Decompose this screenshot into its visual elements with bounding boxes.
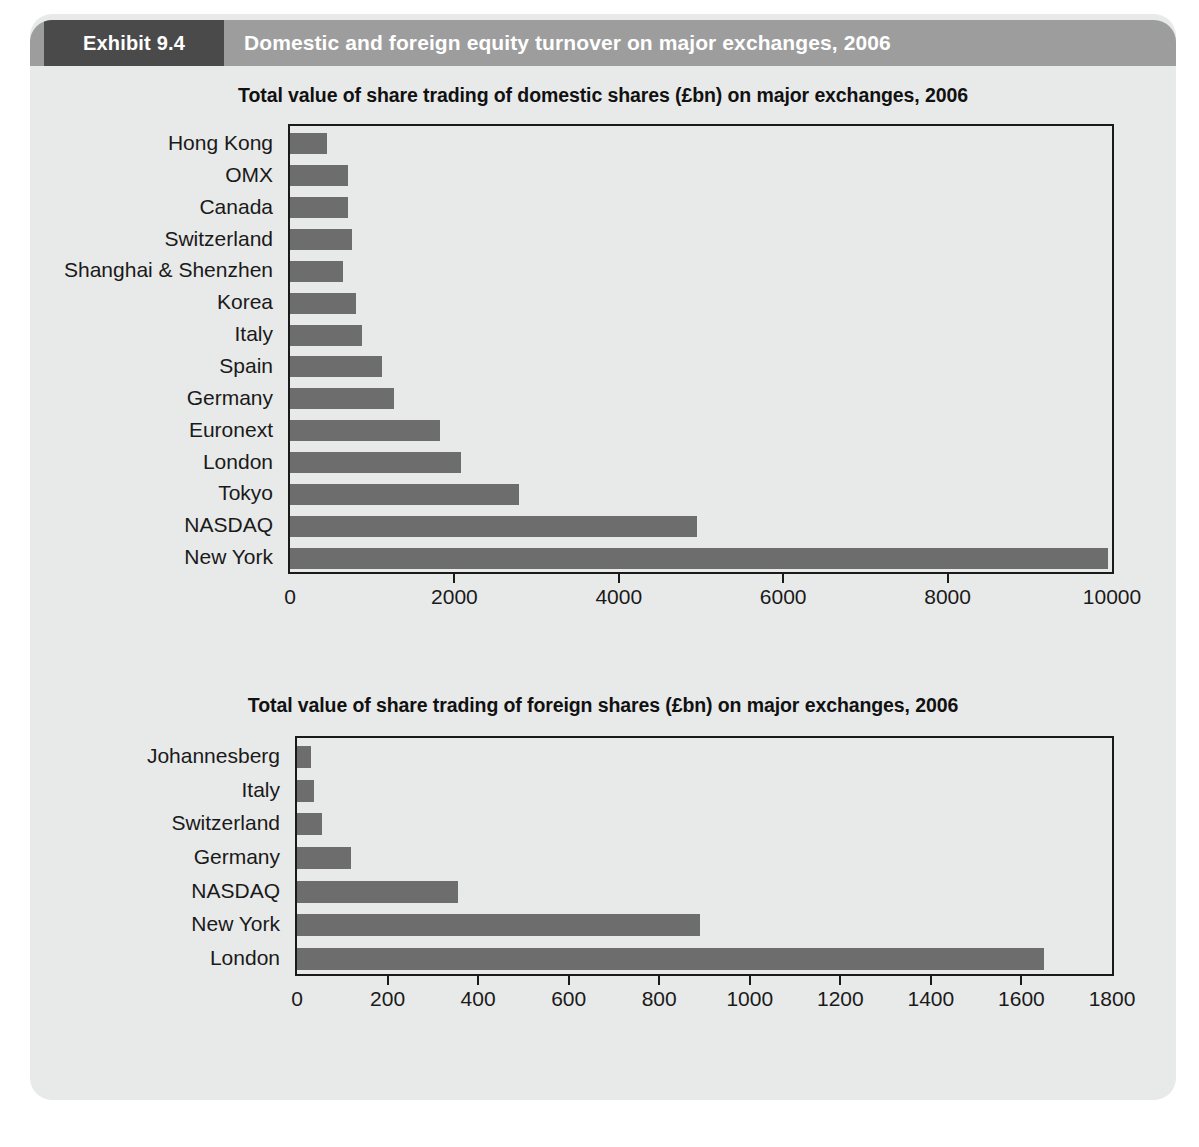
exhibit-header-bar: Exhibit 9.4 Domestic and foreign equity … [30, 20, 1176, 66]
category-tick-label: Johannesberg [147, 744, 280, 765]
chart-domestic-category-axis: Hong KongOMXCanadaSwitzerlandShanghai & … [30, 124, 282, 574]
bar [290, 516, 697, 537]
chart-domestic-plot-area [288, 124, 1114, 574]
bar [290, 548, 1108, 569]
bar [297, 780, 314, 802]
category-tick-label: Spain [219, 354, 273, 375]
axis-tick [477, 976, 479, 985]
axis-tick-label: 6000 [760, 585, 807, 609]
axis-tick [930, 976, 932, 985]
chart-foreign-category-axis: JohannesbergItalySwitzerlandGermanyNASDA… [30, 736, 289, 976]
bar [290, 452, 461, 473]
axis-tick-label: 2000 [431, 585, 478, 609]
exhibit-title: Domestic and foreign equity turnover on … [244, 20, 891, 66]
axis-tick-label: 4000 [595, 585, 642, 609]
bar [290, 261, 343, 282]
exhibit-tag-label: Exhibit 9.4 [83, 32, 185, 55]
axis-tick [749, 976, 751, 985]
chart-foreign-plot-area [295, 736, 1114, 976]
axis-tick [658, 976, 660, 985]
chart-foreign-plot-wrap: JohannesbergItalySwitzerlandGermanyNASDA… [30, 736, 1176, 1076]
exhibit-panel: Exhibit 9.4 Domestic and foreign equity … [30, 14, 1176, 1100]
category-tick-label: NASDAQ [184, 514, 273, 535]
category-tick-label: Switzerland [171, 812, 280, 833]
chart-domestic-shares: Total value of share trading of domestic… [30, 84, 1176, 664]
axis-tick [839, 976, 841, 985]
axis-tick [782, 574, 784, 583]
axis-tick-label: 8000 [924, 585, 971, 609]
bar [297, 914, 700, 936]
chart-domestic-value-axis: 0200040006000800010000 [288, 574, 1114, 608]
category-tick-label: London [210, 947, 280, 968]
category-tick-label: New York [191, 913, 280, 934]
bar [297, 881, 458, 903]
exhibit-tag: Exhibit 9.4 [44, 20, 224, 66]
axis-tick-label: 0 [284, 585, 296, 609]
axis-tick [387, 976, 389, 985]
category-tick-label: Euronext [189, 418, 273, 439]
category-tick-label: NASDAQ [191, 879, 280, 900]
axis-tick [568, 976, 570, 985]
chart-domestic-title: Total value of share trading of domestic… [30, 84, 1176, 107]
bar [290, 197, 348, 218]
axis-tick-label: 800 [642, 987, 677, 1011]
category-tick-label: New York [184, 546, 273, 567]
axis-tick-label: 200 [370, 987, 405, 1011]
chart-foreign-shares: Total value of share trading of foreign … [30, 694, 1176, 1084]
axis-tick-label: 600 [551, 987, 586, 1011]
axis-tick [453, 574, 455, 583]
bar [297, 847, 351, 869]
axis-tick-label: 1200 [817, 987, 864, 1011]
axis-tick-label: 1600 [998, 987, 1045, 1011]
category-tick-label: Tokyo [218, 482, 273, 503]
axis-tick-label: 1800 [1089, 987, 1136, 1011]
axis-tick-label: 10000 [1083, 585, 1141, 609]
axis-tick [1020, 976, 1022, 985]
category-tick-label: Germany [187, 386, 273, 407]
bar [297, 813, 322, 835]
category-tick-label: OMX [225, 163, 273, 184]
chart-domestic-plot-wrap: Hong KongOMXCanadaSwitzerlandShanghai & … [30, 124, 1176, 669]
bar [290, 229, 352, 250]
category-tick-label: Hong Kong [168, 131, 273, 152]
bar [290, 420, 440, 441]
category-tick-label: Shanghai & Shenzhen [64, 259, 273, 280]
axis-tick [947, 574, 949, 583]
axis-tick-label: 1400 [908, 987, 955, 1011]
bar [290, 325, 362, 346]
bar [290, 484, 519, 505]
bar [297, 948, 1044, 970]
category-tick-label: Korea [217, 291, 273, 312]
category-tick-label: London [203, 450, 273, 471]
category-tick-label: Italy [241, 778, 280, 799]
bar [290, 165, 348, 186]
chart-foreign-title: Total value of share trading of foreign … [30, 694, 1176, 717]
bar [290, 293, 356, 314]
category-tick-label: Italy [234, 323, 273, 344]
bar [290, 133, 327, 154]
category-tick-label: Switzerland [164, 227, 273, 248]
axis-tick-label: 1000 [726, 987, 773, 1011]
bar [290, 388, 394, 409]
category-tick-label: Canada [199, 195, 273, 216]
axis-tick-label: 0 [291, 987, 303, 1011]
category-tick-label: Germany [194, 846, 280, 867]
chart-foreign-value-axis: 020040060080010001200140016001800 [295, 976, 1114, 1010]
axis-tick-label: 400 [461, 987, 496, 1011]
bar [290, 356, 382, 377]
axis-tick [618, 574, 620, 583]
bar [297, 746, 311, 768]
